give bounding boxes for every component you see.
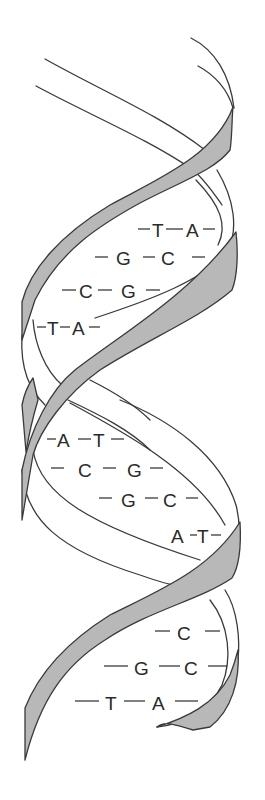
base-label: T — [152, 220, 164, 241]
base-label: G — [127, 460, 142, 481]
base-label: G — [134, 658, 149, 679]
base-label: C — [79, 281, 93, 302]
base-label: T — [197, 526, 209, 547]
backbone-arc-top-outer — [191, 38, 234, 108]
base-pair-row-2: G C — [95, 248, 205, 269]
backbone-arc-top-inner — [198, 66, 233, 108]
base-pair-row-7: G C — [99, 490, 198, 511]
base-pair-row-9: C — [155, 623, 220, 644]
base-label: G — [121, 281, 136, 302]
base-label: A — [72, 318, 85, 339]
base-pair-row-11: T A — [75, 693, 198, 714]
base-pair-row-6: C G — [51, 460, 163, 481]
base-label: G — [116, 248, 131, 269]
base-label: A — [186, 220, 199, 241]
dna-diagram: T A G C C G T A A T C G — [0, 0, 265, 800]
base-label: A — [171, 526, 184, 547]
backbone-strand-loop-inner — [70, 403, 225, 525]
base-pair-row-1: T A — [138, 220, 215, 241]
base-pair-row-5: A T — [47, 430, 124, 451]
base-label: C — [163, 490, 177, 511]
base-pair-row-10: G C — [104, 658, 227, 679]
base-label: C — [177, 623, 191, 644]
base-label: T — [93, 430, 105, 451]
backbone-strand-top-inner — [45, 59, 205, 150]
backbone-strand-right-1b — [196, 180, 222, 245]
base-label: C — [184, 658, 198, 679]
backbone-strand-loop-left-outer — [22, 470, 175, 585]
base-pair-row-4: T A — [37, 318, 100, 339]
base-label: T — [47, 318, 59, 339]
base-label: A — [57, 430, 70, 451]
base-pair-row-3: C G — [62, 281, 160, 302]
base-label: A — [152, 693, 165, 714]
base-label: T — [105, 693, 117, 714]
backbone-arc-lower-outer — [225, 590, 239, 660]
base-pair-row-8: A T — [171, 526, 221, 547]
base-label: G — [121, 490, 136, 511]
base-label: C — [78, 460, 92, 481]
base-label: C — [161, 248, 175, 269]
